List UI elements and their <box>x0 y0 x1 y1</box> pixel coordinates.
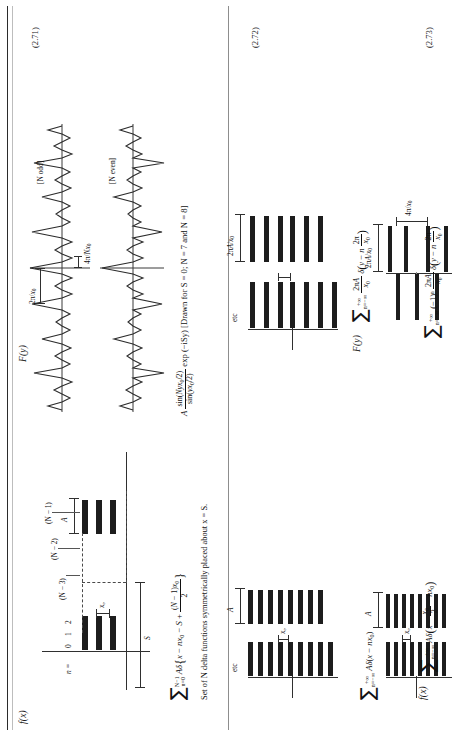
sum-limits: +∞n=−∞ <box>356 295 369 309</box>
textbook-page: f(x) F(y) A x₀ S n = 0 <box>0 0 462 736</box>
delta-bar <box>308 590 313 624</box>
table-rule-middle <box>228 6 229 730</box>
sum-limits: +∞n=−∞ <box>424 645 437 659</box>
chart-r1-left: A x₀ S n = 0 1 2 (N − 3) (N − 2) (N − 1) <box>36 440 156 700</box>
dimension-tick <box>74 267 82 268</box>
delta-bar <box>250 282 255 328</box>
column-header-fy: F(y) <box>18 345 28 362</box>
delta-bar <box>290 282 295 328</box>
sign-factor: (−1)ⁿ <box>428 291 438 309</box>
label-amplitude: 2πA/x0 <box>364 248 373 268</box>
amplitude-dimension <box>378 592 379 628</box>
delta-bar <box>248 642 253 676</box>
delta-bar <box>96 616 102 650</box>
label-spacing: x₀ <box>402 628 411 634</box>
delta-bar-positive <box>444 226 448 272</box>
sigma-symbol: ∑ <box>360 687 375 700</box>
sigma-symbol: ∑ <box>170 687 185 700</box>
delta-bar-positive <box>388 226 392 272</box>
delta-bar <box>386 594 390 628</box>
delta-bar <box>394 642 398 676</box>
label-fx-r3: f(x) <box>418 686 428 700</box>
delta-bar <box>402 642 406 676</box>
x-axis-left-stub <box>416 676 417 698</box>
dimension-tick <box>373 271 383 272</box>
spacing-tick <box>278 273 279 281</box>
y-axis <box>386 677 452 678</box>
label-n-odd: [N odd] <box>36 161 45 184</box>
label-period: 4π/x0 <box>404 201 413 216</box>
delta-bar <box>402 594 406 628</box>
delta-bar <box>268 590 273 624</box>
delta-bar <box>328 642 333 676</box>
delta-bar <box>82 500 88 534</box>
spacing-tick <box>109 609 110 618</box>
delta-bar <box>304 282 309 328</box>
dashed-guide <box>82 582 126 583</box>
delta-bar <box>110 616 116 650</box>
dimension-tick <box>235 214 245 215</box>
delta-bar <box>298 642 303 676</box>
leader-line <box>66 575 80 576</box>
label-lobe-width: 4π/Nx0 <box>83 244 92 264</box>
index-label: n = <box>64 663 73 674</box>
chart-r2-right: 2πA/x0 etc <box>244 52 344 352</box>
amplitude-dimension <box>240 588 241 624</box>
delta-bar <box>278 216 283 262</box>
delta-bar-negative <box>415 274 419 320</box>
period-dimension <box>40 268 41 304</box>
leader-line <box>52 512 80 513</box>
delta-bar <box>308 642 313 676</box>
chart-r2-left: x₀ A etc <box>244 400 344 700</box>
sum-limits: N−1n=0 <box>174 676 187 687</box>
formula-r1-right: A sin(Nyx0/2)sin(yx0/2) exp (−iSy) [Draw… <box>176 206 194 416</box>
label-spacing: x₀ <box>278 628 287 634</box>
dimension-tick <box>235 261 245 262</box>
index-tick-2: 2 <box>64 620 73 624</box>
delta-bar-negative <box>396 274 400 320</box>
delta-bar <box>410 594 414 628</box>
x-axis-left-stub <box>292 676 293 698</box>
table-rule-top <box>7 6 8 730</box>
column-header-fx: f(x) <box>18 710 28 724</box>
y-axis <box>42 651 150 652</box>
amplitude-dimension <box>74 498 75 534</box>
delta-bar <box>442 594 446 628</box>
formula-r2-right: ∑+∞n=−∞ 2πAx0 δ(y − n 2πx0) <box>352 230 371 322</box>
label-spacing: x₀ <box>97 602 106 608</box>
sum-limits: +∞n=−∞ <box>428 311 441 325</box>
delta-bar <box>110 500 116 534</box>
dimension-tick <box>69 533 79 534</box>
delta-bar-positive <box>404 226 408 272</box>
delta-bar <box>288 642 293 676</box>
dimension-tick <box>235 623 245 624</box>
equation-number-272: (2.72) <box>250 27 260 48</box>
delta-bar <box>298 590 303 624</box>
sinc-curves <box>28 116 168 416</box>
dashed-guide <box>82 533 83 633</box>
spacing-tick <box>96 613 110 614</box>
dimension-tick <box>135 582 145 583</box>
delta-bar <box>318 642 323 676</box>
formula-r1-left: ∑N−1n=0 Aδ{x − nx0 − S + (N − 1)x02} <box>170 573 189 700</box>
delta-bar <box>278 642 283 676</box>
delta-bar <box>332 282 337 328</box>
label-period: 2π/x0 <box>28 289 37 304</box>
label-etc: etc <box>230 313 239 322</box>
dimension-tick <box>69 498 79 499</box>
formula-r2-left: ∑+∞n=−∞ Aδ(x − nx0) <box>360 632 376 700</box>
delta-bar <box>290 216 295 262</box>
label-amplitude: 2πA/x0 <box>226 236 235 256</box>
label-offset: S <box>143 636 152 640</box>
x-axis-left-stub <box>292 328 293 350</box>
offset-dimension <box>140 582 141 688</box>
delta-bar <box>318 216 323 262</box>
delta-bar <box>278 282 283 328</box>
delta-bar <box>318 282 323 328</box>
chart-r1-right: 2π/x0 4π/Nx0 [N odd] [N even] <box>28 116 168 416</box>
delta-bar <box>248 590 253 624</box>
dimension-tick <box>235 588 245 589</box>
spacing-tick <box>402 635 403 643</box>
delta-bar <box>264 282 269 328</box>
spacing-tick <box>96 609 97 618</box>
